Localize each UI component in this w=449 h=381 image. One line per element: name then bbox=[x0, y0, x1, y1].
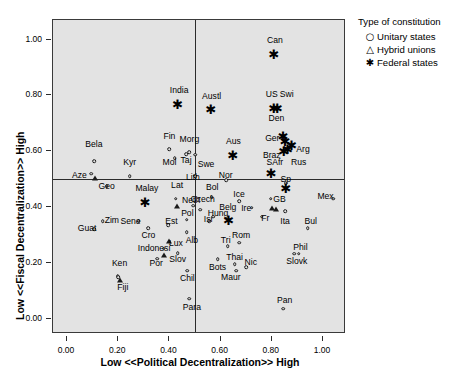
data-point-label: Lat bbox=[171, 180, 183, 190]
data-point: ✱ bbox=[223, 214, 234, 225]
data-point-label: Czech bbox=[191, 194, 215, 204]
y-axis-tick-label: 1.00 bbox=[8, 34, 42, 44]
x-axis-tick-label: 0.60 bbox=[200, 345, 240, 355]
data-point-label: Pol bbox=[181, 208, 193, 218]
data-point-label: Alb bbox=[186, 235, 198, 245]
x-axis-title: Low <<Political Decentralization>> High bbox=[0, 356, 400, 368]
data-point bbox=[297, 252, 301, 256]
x-axis-tick bbox=[168, 336, 169, 341]
data-point bbox=[233, 262, 237, 266]
data-point-label: Maur bbox=[221, 272, 241, 282]
data-point-label: Austl bbox=[202, 91, 221, 101]
data-point: ✱ bbox=[282, 143, 293, 154]
data-point-label: Belg bbox=[219, 202, 236, 212]
data-point-label: Pan bbox=[277, 295, 292, 305]
x-axis-tick-label: 0.80 bbox=[251, 345, 291, 355]
y-axis-tick-label: 0.80 bbox=[8, 89, 42, 99]
data-point: ✱ bbox=[205, 103, 216, 114]
y-axis-tick bbox=[46, 262, 51, 263]
data-point-label: SAfr bbox=[267, 157, 284, 167]
data-point bbox=[216, 258, 220, 262]
data-point-label: Bots bbox=[209, 262, 226, 272]
x-axis-tick-label: 0.00 bbox=[46, 345, 86, 355]
data-point-label: Geo bbox=[99, 181, 115, 191]
data-point-label: Cro bbox=[142, 230, 156, 240]
y-axis-tick bbox=[46, 206, 51, 207]
plot-area: BelaAzeGeoKyrFinMolTajMorgSweLithLatNeth… bbox=[52, 19, 345, 333]
data-point bbox=[186, 269, 190, 273]
data-point bbox=[161, 253, 167, 258]
x-axis-tick-label: 0.40 bbox=[148, 345, 188, 355]
scatter-plot-figure: BelaAzeGeoKyrFinMolTajMorgSweLithLatNeth… bbox=[0, 0, 449, 381]
data-point-label: Est bbox=[165, 216, 177, 226]
data-point-label: India bbox=[170, 85, 189, 95]
data-point: ✱ bbox=[172, 99, 183, 110]
data-point-label: Chil bbox=[180, 273, 195, 283]
y-axis-tick bbox=[46, 318, 51, 319]
data-point-label: Thai bbox=[226, 252, 243, 262]
data-point bbox=[168, 147, 172, 151]
data-point-label: Para bbox=[183, 302, 201, 312]
data-point bbox=[188, 151, 192, 155]
data-point-label: Zim bbox=[105, 215, 119, 225]
data-point-label: US bbox=[266, 89, 278, 99]
data-point-label: Taj bbox=[181, 155, 192, 165]
x-axis-tick bbox=[322, 336, 323, 341]
y-axis-title: Low <<Fiscal Decentralization>> High bbox=[14, 132, 26, 320]
legend: Type of constitution ○Unitary states△Hyb… bbox=[358, 16, 448, 69]
data-point-label: Tri bbox=[221, 235, 231, 245]
legend-entry-label: Unitary states bbox=[377, 31, 436, 42]
y-axis-tick bbox=[46, 150, 51, 151]
legend-entry-label: Federal states bbox=[377, 57, 438, 68]
data-point-label: Ger bbox=[265, 133, 279, 143]
data-point bbox=[174, 203, 180, 208]
data-point-label: Arg bbox=[296, 144, 309, 154]
data-point-label: Nic bbox=[245, 257, 257, 267]
data-point bbox=[128, 175, 132, 179]
data-point-label: Slovk bbox=[286, 256, 307, 266]
data-point-label: Aze bbox=[72, 170, 87, 180]
data-point: ✱ bbox=[227, 149, 238, 160]
data-point-label: Malay bbox=[135, 183, 158, 193]
data-point-label: Mol bbox=[162, 157, 176, 167]
data-point-label: Swi bbox=[280, 89, 294, 99]
data-point-label: Slov bbox=[169, 254, 186, 264]
data-point-label: Aus bbox=[226, 136, 241, 146]
data-point-label: Por bbox=[149, 258, 162, 268]
data-point: ✱ bbox=[280, 183, 291, 194]
data-point bbox=[185, 230, 189, 234]
data-point-label: Ken bbox=[112, 258, 127, 268]
data-point-label: Swe bbox=[198, 159, 215, 169]
data-point-label: Ice bbox=[233, 189, 244, 199]
data-point-label: Lux bbox=[169, 238, 183, 248]
data-point-label: Ire bbox=[241, 203, 251, 213]
data-point bbox=[174, 197, 178, 201]
data-point-label: Fin bbox=[163, 131, 175, 141]
data-point bbox=[92, 159, 96, 163]
data-point-label: Fr bbox=[261, 213, 269, 223]
data-point-label: Bela bbox=[85, 139, 102, 149]
data-point-label: Mex bbox=[317, 191, 333, 201]
data-point bbox=[283, 209, 287, 213]
data-point bbox=[185, 218, 189, 222]
legend-entry-asterisk-filled: ✱Federal states bbox=[363, 56, 448, 69]
data-point-label: Guat bbox=[78, 223, 97, 233]
data-point-label: Rus bbox=[291, 157, 306, 167]
data-point-label: Nor bbox=[219, 170, 233, 180]
legend-entries: ○Unitary states△Hybrid unions✱Federal st… bbox=[358, 30, 448, 69]
data-point-label: Bul bbox=[304, 216, 316, 226]
asterisk-filled-icon: ✱ bbox=[363, 56, 377, 69]
data-point-label: Rom bbox=[232, 230, 250, 240]
legend-entry-label: Hybrid unions bbox=[377, 44, 436, 55]
triangle-open-icon: △ bbox=[363, 43, 377, 56]
x-axis-tick bbox=[117, 336, 118, 341]
legend-entry-circle-open: ○Unitary states bbox=[363, 30, 448, 43]
data-point: ✱ bbox=[140, 196, 151, 207]
x-axis-tick bbox=[220, 336, 221, 341]
data-point-label: Lith bbox=[186, 172, 200, 182]
legend-entry-triangle-open: △Hybrid unions bbox=[363, 43, 448, 56]
data-point-label: Kyr bbox=[123, 157, 136, 167]
legend-title: Type of constitution bbox=[358, 16, 448, 27]
y-axis-tick bbox=[46, 39, 51, 40]
data-point bbox=[293, 252, 297, 256]
